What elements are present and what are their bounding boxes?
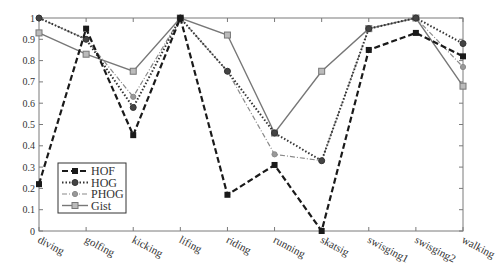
line-chart: 00.10.20.30.40.50.60.70.80.91divinggolfi…	[0, 0, 499, 274]
marker-square	[177, 15, 183, 21]
y-tick-label: 0.9	[23, 34, 36, 45]
y-tick-label: 0.2	[23, 183, 36, 194]
marker-square-open	[224, 32, 230, 38]
marker-circle	[36, 15, 42, 21]
series-line	[39, 18, 463, 133]
legend: HOFHOGPHOGGist	[58, 163, 126, 213]
legend-label: Gist	[91, 199, 112, 213]
marker-square	[319, 228, 325, 234]
x-tick-label: swisging1	[366, 233, 411, 265]
marker-square	[413, 30, 419, 36]
x-tick-label: riding	[225, 233, 254, 256]
x-tick-label: kicking	[130, 233, 165, 259]
marker-square-open	[130, 68, 136, 74]
y-tick-label: 1	[30, 13, 35, 24]
marker-square	[36, 181, 42, 187]
marker-square-open	[83, 51, 89, 57]
marker-circle-small	[460, 64, 465, 69]
y-tick-label: 0.6	[23, 98, 36, 109]
y-tick-label: 0.1	[23, 204, 36, 215]
marker-square	[224, 192, 230, 198]
marker-circle	[460, 41, 466, 47]
series-line	[39, 18, 463, 161]
x-tick-label: diving	[36, 233, 67, 257]
marker-circle-small	[131, 94, 136, 99]
marker-square	[72, 168, 78, 174]
marker-circle-small	[72, 191, 77, 196]
y-tick-label: 0.5	[23, 119, 36, 130]
x-tick-label: walking	[460, 233, 497, 260]
marker-circle	[319, 158, 325, 164]
marker-circle	[130, 104, 136, 110]
y-tick-label: 0.8	[23, 55, 36, 66]
marker-circle	[272, 130, 278, 136]
marker-square	[272, 162, 278, 168]
x-tick-label: lifing	[177, 233, 204, 255]
marker-circle	[413, 15, 419, 21]
x-tick-label: skatsig	[319, 233, 352, 258]
marker-square-open	[72, 203, 78, 209]
x-tick-label: golfing	[83, 233, 117, 259]
marker-circle	[224, 68, 230, 74]
marker-circle	[72, 180, 78, 186]
series-line	[39, 18, 463, 161]
x-tick-label: running	[272, 233, 308, 260]
marker-square	[130, 132, 136, 138]
y-tick-label: 0.3	[23, 162, 36, 173]
series-gist	[36, 15, 466, 136]
marker-square	[460, 53, 466, 59]
marker-square-open	[319, 68, 325, 74]
marker-circle	[366, 26, 372, 32]
marker-circle-small	[272, 152, 277, 157]
chart-canvas: 00.10.20.30.40.50.60.70.80.91divinggolfi…	[0, 0, 499, 274]
y-tick-label: 0.4	[23, 140, 36, 151]
x-tick-label: swisging2	[413, 233, 458, 265]
y-tick-label: 0	[30, 226, 35, 237]
marker-square	[366, 47, 372, 53]
marker-square	[83, 26, 89, 32]
y-tick-label: 0.7	[23, 76, 36, 87]
marker-square-open	[460, 83, 466, 89]
marker-square-open	[36, 30, 42, 36]
axes: 00.10.20.30.40.50.60.70.80.91divinggolfi…	[23, 13, 498, 265]
